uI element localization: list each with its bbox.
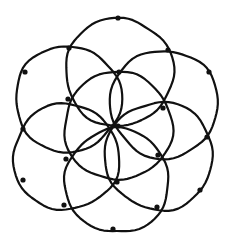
dot-inner-lower-left [63, 156, 68, 161]
dot-outer-right-upper [206, 69, 211, 74]
seed-of-life-diagram [0, 0, 231, 243]
dot-outer-bottom-right [154, 204, 159, 209]
dot-outer-top-left [66, 45, 71, 50]
dot-outer-right [204, 134, 209, 139]
dot-outer-bottom-left [61, 202, 66, 207]
dot-inner-top [116, 69, 121, 74]
dot-inner-upper-right [160, 105, 165, 110]
dot-inner-bottom [114, 179, 119, 184]
dot-inner-upper-left [65, 96, 70, 101]
dot-outer-top-right [165, 47, 170, 52]
dot-outer-left-upper [22, 69, 27, 74]
dot-outer-right-lower [197, 187, 202, 192]
dot-center [115, 123, 120, 128]
dot-outer-top [115, 15, 120, 20]
dot-outer-left [20, 126, 25, 131]
dot-inner-lower-right [155, 152, 160, 157]
dot-outer-left-lower [20, 177, 25, 182]
dot-outer-bottom [110, 226, 115, 231]
